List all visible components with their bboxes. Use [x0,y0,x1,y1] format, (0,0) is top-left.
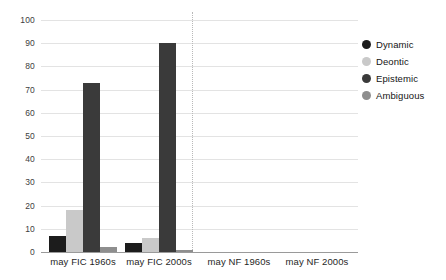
y-axis-tick-60: 60 [1,109,35,118]
x-axis-label-may-nf-2000s: may NF 2000s [257,256,377,267]
bar-group-bars [125,20,193,252]
legend-swatch-icon [362,91,371,100]
legend-label: Epistemic [376,73,418,84]
bar-group-bars [205,20,273,252]
plot-area: may FIC 1960s may FIC 2000s may NF 1960s [41,20,358,252]
y-axis-tick-50: 50 [1,132,35,141]
legend-item-epistemic: Epistemic [362,70,446,87]
bar-deontic [142,238,159,252]
legend: Dynamic Deontic Epistemic Ambiguous [362,36,446,104]
bar-epistemic [159,43,176,252]
bar-group-bars [49,20,117,252]
y-axis-tick-80: 80 [1,62,35,71]
legend-item-dynamic: Dynamic [362,36,446,53]
bar-dynamic [49,236,66,252]
bar-group-bars [283,20,351,252]
y-axis-tick-70: 70 [1,85,35,94]
y-axis-tick-30: 30 [1,178,35,187]
legend-item-ambiguous: Ambiguous [362,87,446,104]
y-axis-tick-90: 90 [1,39,35,48]
y-axis-tick-40: 40 [1,155,35,164]
bar-ambiguous [176,250,193,252]
bar-epistemic [83,83,100,252]
y-axis-tick-0: 0 [1,248,35,257]
x-axis-baseline [41,252,358,253]
y-axis-tick-20: 20 [1,201,35,210]
bar-chart: 100 90 80 70 60 50 40 30 20 10 0 may FIC… [0,0,446,280]
bar-deontic [66,210,83,252]
legend-swatch-icon [362,40,371,49]
legend-label: Ambiguous [376,90,424,101]
legend-swatch-icon [362,57,371,66]
y-axis-tick-100: 100 [1,16,35,25]
legend-label: Deontic [376,56,409,67]
bar-dynamic [125,243,142,252]
y-axis-tick-10: 10 [1,225,35,234]
legend-label: Dynamic [376,39,414,50]
legend-swatch-icon [362,74,371,83]
bar-ambiguous [100,247,117,252]
legend-item-deontic: Deontic [362,53,446,70]
